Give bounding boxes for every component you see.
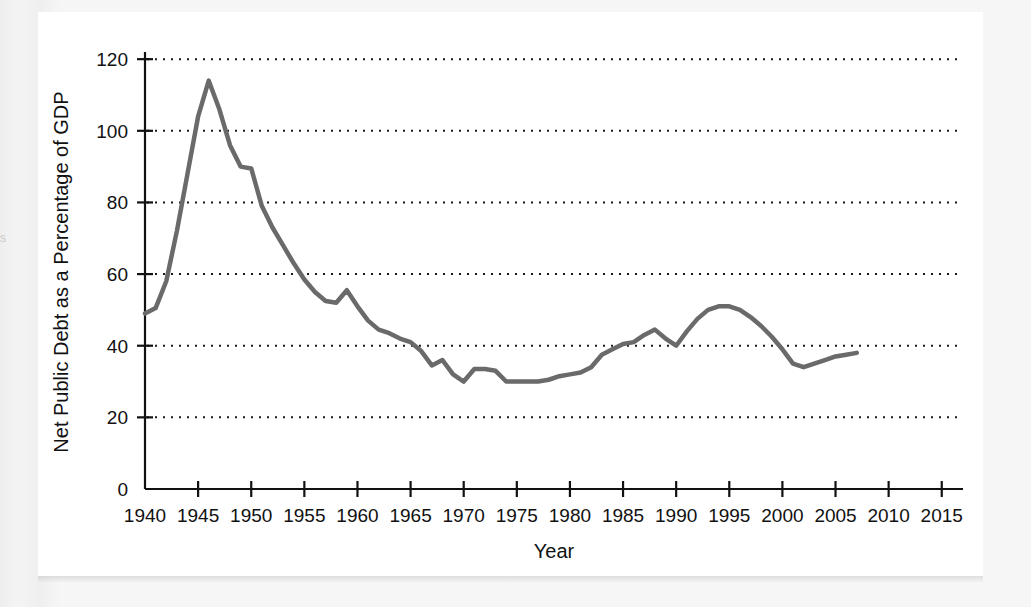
x-tick-label: 2010 bbox=[867, 505, 909, 526]
x-tick-label: 1980 bbox=[549, 505, 591, 526]
chart-svg: 020406080100120 194019451950195519601965… bbox=[38, 12, 983, 576]
x-tick-label: 1965 bbox=[389, 505, 431, 526]
x-tick-label: 2005 bbox=[814, 505, 856, 526]
x-tick-label: 2000 bbox=[761, 505, 803, 526]
x-tick-label: 1945 bbox=[177, 505, 219, 526]
y-tick-label: 80 bbox=[107, 192, 128, 213]
x-tick-label: 1975 bbox=[496, 505, 538, 526]
figure-inner: 020406080100120 194019451950195519601965… bbox=[38, 12, 983, 576]
y-tick-label: 20 bbox=[107, 407, 128, 428]
y-tick-label: 100 bbox=[96, 121, 128, 142]
x-axis-tick-labels: 1940194519501955196019651970197519801985… bbox=[124, 505, 963, 526]
x-tick-label: 1940 bbox=[124, 505, 166, 526]
y-tick-label: 120 bbox=[96, 49, 128, 70]
figure-panel: 020406080100120 194019451950195519601965… bbox=[38, 12, 983, 576]
x-tick-label: 1970 bbox=[443, 505, 485, 526]
x-tick-label: 1950 bbox=[230, 505, 272, 526]
page-edge-glyph: s bbox=[0, 232, 6, 244]
panel-drop-shadow bbox=[38, 576, 983, 583]
x-tick-label: 1995 bbox=[708, 505, 750, 526]
y-tick-label: 40 bbox=[107, 336, 128, 357]
x-tick-label: 1960 bbox=[336, 505, 378, 526]
x-tick-label: 1990 bbox=[655, 505, 697, 526]
x-axis-title: Year bbox=[534, 540, 575, 562]
x-tick-label: 1955 bbox=[283, 505, 325, 526]
y-axis-title: Net Public Debt as a Percentage of GDP bbox=[50, 91, 72, 452]
y-axis-tick-labels: 020406080100120 bbox=[96, 49, 128, 500]
x-tick-label: 2015 bbox=[921, 505, 963, 526]
y-tick-label: 0 bbox=[117, 479, 128, 500]
y-tick-label: 60 bbox=[107, 264, 128, 285]
x-tick-label: 1985 bbox=[602, 505, 644, 526]
gridlines bbox=[147, 59, 960, 417]
line-chart: 020406080100120 194019451950195519601965… bbox=[38, 12, 983, 576]
data-series-line bbox=[145, 81, 857, 382]
